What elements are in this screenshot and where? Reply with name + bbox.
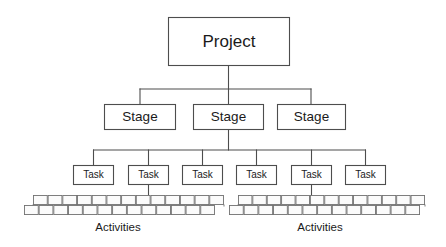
activity-cell[interactable] xyxy=(69,205,83,214)
activity-cell[interactable] xyxy=(136,195,150,204)
wbs-diagram-canvas: Project Stage Stage Stage Task Task Task xyxy=(0,0,446,247)
node-task-1[interactable]: Task xyxy=(74,166,114,185)
activity-cell[interactable] xyxy=(39,205,53,214)
activity-cell[interactable] xyxy=(63,195,77,204)
task-6-label: Task xyxy=(355,169,377,180)
activity-cell[interactable] xyxy=(142,205,156,214)
activity-cell[interactable] xyxy=(376,205,390,214)
task-5-label: Task xyxy=(301,169,323,180)
task-2-label: Task xyxy=(138,169,160,180)
activity-cell[interactable] xyxy=(310,195,323,204)
stage-3-label: Stage xyxy=(294,109,329,124)
activity-cell[interactable] xyxy=(54,205,68,214)
activity-cell[interactable] xyxy=(288,205,302,214)
node-project[interactable]: Project xyxy=(169,18,290,66)
node-task-2[interactable]: Task xyxy=(129,166,169,185)
activity-cell[interactable] xyxy=(122,195,136,204)
activity-cell[interactable] xyxy=(186,205,200,214)
activity-cell[interactable] xyxy=(92,195,106,204)
activity-cell[interactable] xyxy=(107,195,121,204)
activity-cell[interactable] xyxy=(201,205,215,214)
node-stage-1[interactable]: Stage xyxy=(105,105,176,130)
activity-cell[interactable] xyxy=(391,205,405,214)
node-stage-2[interactable]: Stage xyxy=(194,105,264,130)
activity-cell[interactable] xyxy=(296,195,309,204)
activity-cell[interactable] xyxy=(180,195,194,204)
activity-cell[interactable] xyxy=(171,205,185,214)
node-task-6[interactable]: Task xyxy=(346,166,386,185)
activity-cell[interactable] xyxy=(339,195,352,204)
activity-cell[interactable] xyxy=(244,205,258,214)
project-label: Project xyxy=(203,32,256,51)
node-task-5[interactable]: Task xyxy=(292,166,332,185)
task-4-label: Task xyxy=(246,169,268,180)
connector-stage-to-tasks xyxy=(94,130,366,165)
task-3-label: Task xyxy=(192,169,214,180)
activity-cell[interactable] xyxy=(33,195,47,204)
activity-cell[interactable] xyxy=(151,195,165,204)
activity-cell[interactable] xyxy=(78,195,92,204)
activity-cell[interactable] xyxy=(267,195,280,204)
activity-cell[interactable] xyxy=(406,205,420,214)
task-1-label: Task xyxy=(83,169,105,180)
node-task-4[interactable]: Task xyxy=(237,166,277,185)
activity-cell[interactable] xyxy=(303,205,317,214)
activity-group-2 xyxy=(229,195,425,214)
activity-cell[interactable] xyxy=(166,195,180,204)
activities-caption-left: Activities xyxy=(95,221,141,233)
node-stage-3[interactable]: Stage xyxy=(278,105,346,130)
activity-cell[interactable] xyxy=(210,195,224,204)
activity-cell[interactable] xyxy=(411,195,424,204)
activity-cell[interactable] xyxy=(368,195,381,204)
activity-cell[interactable] xyxy=(98,205,112,214)
activity-cell[interactable] xyxy=(382,195,395,204)
activity-cell[interactable] xyxy=(354,195,367,204)
activity-cell[interactable] xyxy=(397,195,410,204)
activity-cell[interactable] xyxy=(195,195,209,204)
activity-cell[interactable] xyxy=(229,205,243,214)
activity-cell[interactable] xyxy=(325,195,338,204)
activity-cell[interactable] xyxy=(318,205,332,214)
activity-group-1 xyxy=(24,195,224,214)
activity-cell[interactable] xyxy=(24,205,38,214)
activity-cell[interactable] xyxy=(113,205,127,214)
activity-cell[interactable] xyxy=(282,195,295,204)
activity-cell[interactable] xyxy=(253,195,266,204)
activity-cell[interactable] xyxy=(274,205,288,214)
activity-cell[interactable] xyxy=(238,195,251,204)
activity-cell[interactable] xyxy=(48,195,62,204)
node-task-3[interactable]: Task xyxy=(183,166,223,185)
connector-project-to-stages xyxy=(140,66,311,104)
connector-tasks-to-activities xyxy=(149,185,312,195)
activity-cell[interactable] xyxy=(157,205,171,214)
activity-cell-rows xyxy=(24,195,425,214)
activity-cell[interactable] xyxy=(83,205,97,214)
activity-cell[interactable] xyxy=(259,205,273,214)
activity-cell[interactable] xyxy=(347,205,361,214)
stage-1-label: Stage xyxy=(122,109,157,124)
activity-cell[interactable] xyxy=(362,205,376,214)
activity-cell[interactable] xyxy=(127,205,141,214)
wbs-diagram-svg: Project Stage Stage Stage Task Task Task xyxy=(0,0,446,247)
activities-caption-right: Activities xyxy=(297,221,343,233)
activity-cell[interactable] xyxy=(332,205,346,214)
stage-2-label: Stage xyxy=(211,109,246,124)
